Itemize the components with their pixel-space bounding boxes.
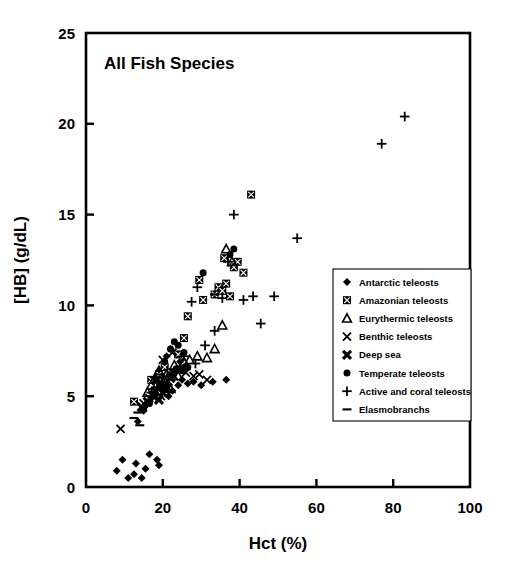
data-point (203, 353, 212, 361)
data-point (161, 358, 168, 365)
x-axis-tick-label: 0 (82, 499, 90, 516)
data-point (163, 384, 170, 391)
data-point (230, 246, 237, 253)
legend-label: Benthic teleosts (359, 331, 432, 342)
y-axis-tick-label: 25 (58, 25, 75, 42)
data-point (132, 459, 140, 467)
x-axis-tick-label: 80 (385, 499, 402, 516)
plot-title: All Fish Species (104, 54, 234, 73)
y-axis-tick-label: 10 (58, 297, 75, 314)
data-point (146, 400, 153, 407)
data-point (118, 456, 126, 464)
legend-label: Elasmobranchs (359, 404, 430, 415)
y-axis-title: [HB] (g/dL) (11, 216, 30, 304)
series-amazonian-teleosts (130, 191, 255, 406)
legend-label: Deep sea (359, 349, 401, 360)
y-axis-tick-label: 20 (58, 115, 75, 132)
x-axis-tick-label: 100 (457, 499, 482, 516)
legend-marker-square-crossed (343, 296, 351, 304)
data-point (193, 352, 202, 360)
legend-label: Amazonian teleosts (359, 295, 448, 306)
x-axis-title: Hct (%) (249, 534, 308, 553)
legend-box (333, 269, 471, 421)
data-point (210, 344, 219, 352)
data-point (145, 450, 153, 458)
plot-canvas: 0510152025020406080100Hct (%)[HB] (g/dL)… (0, 0, 521, 561)
data-point (167, 345, 174, 352)
legend-marker-circle (344, 370, 351, 377)
legend: Antarctic teleostsAmazonian teleostsEury… (333, 269, 471, 421)
data-point (138, 474, 146, 482)
data-point (218, 321, 227, 329)
x-axis-tick-label: 60 (308, 499, 325, 516)
data-point (113, 467, 121, 475)
data-point (222, 376, 230, 384)
legend-label: Eurythermic teleosts (359, 313, 453, 324)
legend-label: Antarctic teleosts (359, 277, 439, 288)
scatter-plot-figure: 0510152025020406080100Hct (%)[HB] (g/dL)… (0, 0, 521, 561)
y-axis-tick-label: 5 (67, 388, 75, 405)
legend-label: Active and coral teleosts (359, 386, 471, 397)
data-point (200, 269, 207, 276)
y-axis-tick-label: 0 (67, 479, 75, 496)
legend-label: Temperate teleosts (359, 368, 445, 379)
data-point (175, 342, 182, 349)
y-axis-tick-label: 15 (58, 206, 75, 223)
x-axis-tick-label: 40 (231, 499, 248, 516)
data-point (142, 465, 150, 473)
legend-marker (344, 370, 351, 377)
x-axis-tick-label: 20 (154, 499, 171, 516)
